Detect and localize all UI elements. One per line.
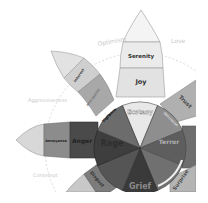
label-ecstasy: Ecstasy bbox=[127, 108, 153, 116]
label-serenity: Serenity bbox=[128, 53, 155, 60]
dyad-label-aggressiveness: Aggressiveness bbox=[28, 97, 67, 104]
label-annoyance: Annoyance bbox=[45, 139, 67, 143]
label-joy: Joy bbox=[134, 78, 147, 86]
petal-anticipation[interactable] bbox=[51, 51, 114, 116]
dyad-label-love: Love bbox=[171, 37, 185, 44]
dyad-label-contempt: Contempt bbox=[33, 172, 58, 179]
anger-tip bbox=[16, 124, 44, 156]
label-terror: Terror bbox=[159, 138, 179, 145]
label-anger: Anger bbox=[72, 137, 92, 145]
joy-outer bbox=[123, 10, 160, 42]
label-grief: Grief bbox=[129, 182, 152, 191]
emotion-wheel-diagram: Optimism Love Aggressiveness Contempt Se… bbox=[0, 0, 208, 203]
label-rage: Rage bbox=[101, 139, 124, 148]
